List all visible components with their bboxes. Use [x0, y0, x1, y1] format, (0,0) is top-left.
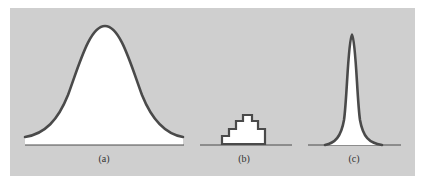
panel-c-sharp-peak	[308, 35, 401, 145]
panel-a-bell-curve	[25, 26, 184, 145]
panel-b-histogram	[200, 115, 292, 145]
panel-a-label: (a)	[98, 153, 109, 164]
distribution-figure	[0, 0, 426, 183]
panel-b-label: (b)	[238, 153, 250, 164]
panel-c-label: (c)	[348, 153, 359, 164]
